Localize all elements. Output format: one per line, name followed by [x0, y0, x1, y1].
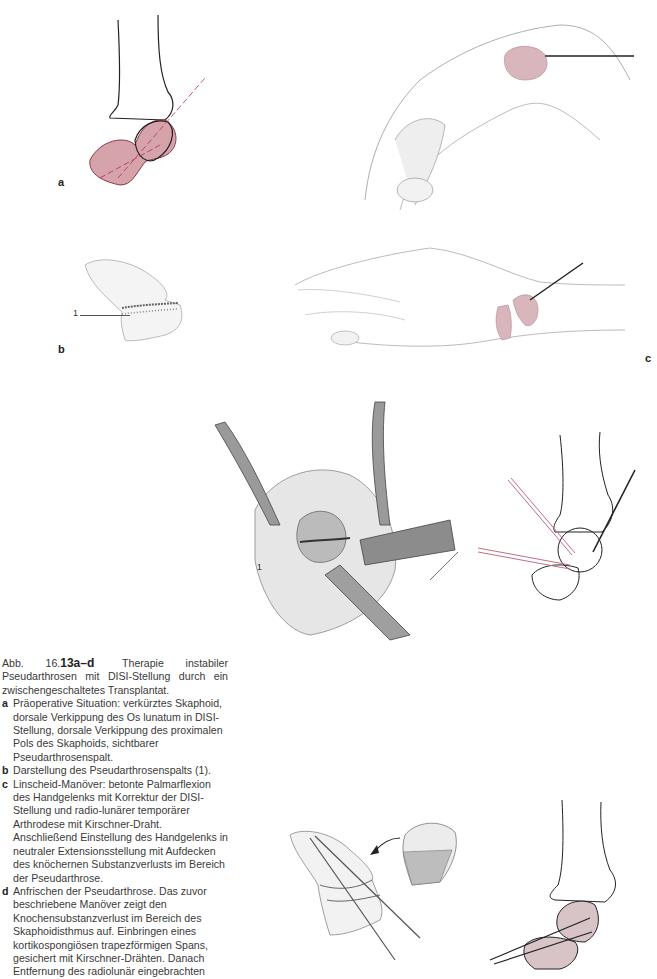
surgical-exposure-illustration	[200, 390, 480, 640]
callout-1-d: 1	[257, 562, 262, 572]
callout-1-b: 1	[73, 308, 78, 318]
wrist-bone-diagram-a	[40, 0, 220, 200]
final-fixation-diagram	[480, 770, 657, 969]
panel-label-c: c	[645, 352, 651, 364]
figure-panel-a: a	[40, 0, 220, 200]
figure-hand-flexed	[360, 0, 657, 220]
arrow-icon	[370, 845, 379, 855]
hand-flexion-illustration	[360, 0, 657, 220]
figure-number-prefix: Abb. 16.	[2, 657, 60, 669]
figure-panel-d-final	[480, 770, 657, 969]
scaphoid-graft-illustration	[240, 760, 490, 969]
caption-item-c: c Linscheid-Manöver: betonte Palmarflexi…	[2, 778, 228, 885]
caption-item-a: a Präoperative Situation: verkürztes Ska…	[2, 697, 228, 764]
caption-item-b: b Darstellung des Pseudarthrosenspalts (…	[2, 764, 228, 777]
leader-line-b	[80, 315, 130, 316]
panel-label-b: b	[58, 343, 65, 355]
figure-panel-d-kwire	[460, 410, 657, 640]
figure-panel-c: c	[280, 230, 657, 370]
kwire-fixation-diagram	[460, 410, 657, 640]
figure-number: 13a–d	[60, 656, 94, 670]
caption-title: Abb. 16.13a–d Therapie instabiler Pseuda…	[2, 657, 228, 697]
figure-panel-d-graft	[240, 760, 490, 969]
hand-neutral-illustration	[280, 230, 657, 370]
figure-caption: Abb. 16.13a–d Therapie instabiler Pseuda…	[2, 657, 228, 979]
figure-panel-d-surgery: 1	[200, 390, 480, 640]
scaphoid-gap-illustration	[40, 230, 220, 360]
panel-label-a: a	[58, 176, 64, 188]
figure-panel-b: 1 b	[40, 230, 220, 360]
caption-item-d: d Anfrischen der Pseudarthrose. Das zuvo…	[2, 885, 228, 979]
